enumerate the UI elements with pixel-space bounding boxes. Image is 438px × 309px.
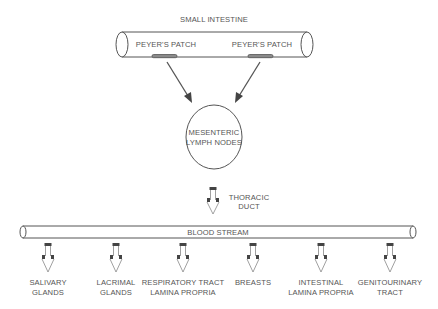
arrow-down-icon xyxy=(42,243,54,272)
svg-text:BREASTS: BREASTS xyxy=(235,278,271,287)
thoracic-duct-arrow-icon xyxy=(207,187,219,214)
node-label-line2: LYMPH NODES xyxy=(186,138,242,147)
svg-text:GENITOURINARY: GENITOURINARY xyxy=(358,278,422,287)
mesenteric-lymph-nodes-node xyxy=(186,105,242,169)
arrow-left-to-nodes xyxy=(167,62,192,103)
destination-genitourinary-tract: GENITOURINARY TRACT xyxy=(358,278,422,297)
arrow-down-icon xyxy=(315,243,327,272)
svg-text:TRACT: TRACT xyxy=(377,288,403,297)
peyers-patch-right xyxy=(248,55,273,58)
svg-text:LACRIMAL: LACRIMAL xyxy=(97,278,136,287)
svg-text:LAMINA PROPRIA: LAMINA PROPRIA xyxy=(150,288,216,297)
thoracic-duct-label-line1: THORACIC xyxy=(229,193,270,202)
destination-breasts: BREASTS xyxy=(235,278,271,287)
arrow-down-icon xyxy=(177,243,189,272)
small-intestine-title: SMALL INTESTINE xyxy=(180,15,248,24)
svg-text:GLANDS: GLANDS xyxy=(100,288,132,297)
immune-migration-diagram: SMALL INTESTINE PEYER'S PATCH PEYER'S PA… xyxy=(0,0,438,309)
peyers-patch-label-left: PEYER'S PATCH xyxy=(136,40,196,49)
svg-text:GLANDS: GLANDS xyxy=(32,288,64,297)
svg-text:SALIVARY: SALIVARY xyxy=(29,278,66,287)
arrow-right-to-nodes xyxy=(235,62,260,103)
blood-stream-label: BLOOD STREAM xyxy=(187,228,249,237)
svg-text:RESPIRATORY TRACT: RESPIRATORY TRACT xyxy=(142,278,225,287)
peyers-patch-label-right: PEYER'S PATCH xyxy=(232,40,292,49)
arrow-down-icon xyxy=(384,243,396,272)
arrow-down-icon xyxy=(247,243,259,272)
node-label-line1: MESENTERIC xyxy=(189,128,240,137)
destination-respiratory-tract: RESPIRATORY TRACT LAMINA PROPRIA xyxy=(142,278,225,297)
arrow-down-icon xyxy=(110,243,122,272)
destination-intestinal-lamina-propria: INTESTINAL LAMINA PROPRIA xyxy=(288,278,354,297)
svg-text:INTESTINAL: INTESTINAL xyxy=(299,278,344,287)
thoracic-duct-label-line2: DUCT xyxy=(238,202,260,211)
destination-lacrimal-glands: LACRIMAL GLANDS xyxy=(97,278,136,297)
svg-text:LAMINA PROPRIA: LAMINA PROPRIA xyxy=(288,288,354,297)
destination-salivary-glands: SALIVARY GLANDS xyxy=(29,278,66,297)
peyers-patch-left xyxy=(152,55,177,58)
